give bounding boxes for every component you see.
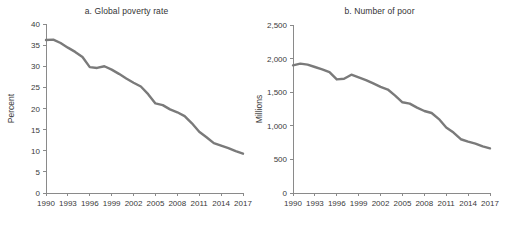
poverty-figure: a. Global poverty rate 05101520253035401… [0, 0, 506, 225]
x-tick-label: 2011 [191, 199, 209, 208]
y-tick-label: 25 [31, 83, 40, 92]
panel-a-plot: 0510152025303540199019931996199920022005… [0, 0, 253, 225]
x-tick-label: 1999 [103, 199, 121, 208]
y-tick-label: 35 [31, 41, 40, 50]
y-tick-label: 1,000 [267, 122, 288, 131]
x-tick-label: 1990 [284, 199, 302, 208]
y-tick-label: 500 [274, 155, 288, 164]
y-tick-label: 2,000 [267, 55, 288, 64]
x-tick-label: 1990 [37, 199, 55, 208]
x-tick-label: 2005 [147, 199, 165, 208]
y-tick-label: 0 [36, 189, 41, 198]
y-tick-label: 30 [31, 62, 40, 71]
x-tick-label: 2017 [481, 199, 499, 208]
x-tick-label: 2008 [168, 199, 186, 208]
x-tick-label: 2002 [125, 199, 143, 208]
y-tick-label: 1,500 [267, 88, 288, 97]
y-tick-label: 2,500 [267, 21, 288, 30]
panel-b-plot: 05001,0001,5002,0002,5001990199319961999… [253, 0, 506, 225]
x-tick-label: 2002 [372, 199, 390, 208]
x-tick-label: 1993 [306, 199, 324, 208]
x-tick-label: 1999 [350, 199, 368, 208]
y-axis-title: Millions [254, 95, 264, 123]
y-tick-label: 15 [31, 126, 40, 135]
x-tick-label: 2008 [415, 199, 433, 208]
x-tick-label: 1993 [59, 199, 77, 208]
x-tick-label: 2017 [234, 199, 252, 208]
y-tick-label: 5 [36, 168, 41, 177]
x-tick-label: 2014 [212, 199, 230, 208]
y-tick-label: 40 [31, 20, 40, 29]
x-tick-label: 2011 [438, 199, 456, 208]
chart-panel-b: b. Number of poor 05001,0001,5002,0002,5… [253, 0, 506, 225]
x-tick-label: 2014 [459, 199, 477, 208]
x-tick-label: 1996 [328, 199, 346, 208]
y-axis-title: Percent [6, 93, 16, 123]
series-line-global-poverty-rate [46, 40, 243, 154]
x-tick-label: 1996 [81, 199, 99, 208]
x-tick-label: 2005 [394, 199, 412, 208]
y-tick-label: 20 [31, 105, 40, 114]
y-tick-label: 0 [283, 189, 288, 198]
series-line-number-of-poor [293, 64, 490, 149]
y-tick-label: 10 [31, 147, 40, 156]
chart-panel-a: a. Global poverty rate 05101520253035401… [0, 0, 253, 225]
